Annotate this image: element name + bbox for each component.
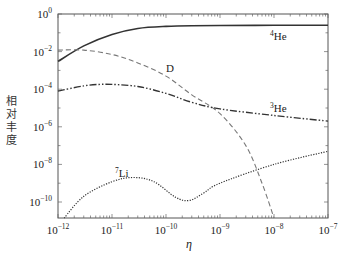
abundance-chart: 10−1210−1110−1010−910−810−710010−210−410…	[0, 0, 347, 260]
y-axis-label: 相对丰度	[4, 95, 18, 147]
tick-label: 10−8	[33, 156, 52, 170]
tick-label: 10−8	[265, 222, 284, 236]
curve-4he	[58, 25, 328, 61]
tick-label: 10−12	[47, 222, 70, 236]
tick-label: 10−10	[155, 222, 178, 236]
curve-deuterium	[58, 50, 274, 218]
tick-label: 10−6	[33, 119, 52, 133]
tick-label: 100	[37, 6, 52, 20]
axis-ticks	[58, 14, 328, 218]
tick-label: 10−2	[33, 44, 52, 58]
plot-frame	[58, 14, 328, 218]
label-7li: 7Li	[115, 166, 129, 179]
label-4he: 4He	[270, 29, 287, 42]
tick-label: 10−4	[33, 81, 52, 95]
curve-7li	[64, 151, 328, 218]
tick-label: 10−11	[101, 222, 124, 236]
tick-label: 10−7	[319, 222, 338, 236]
label-d: D	[166, 62, 174, 74]
curve-3he	[58, 84, 328, 121]
tick-label: 10−9	[211, 222, 230, 236]
label-3he: 3He	[270, 101, 287, 114]
x-axis-label: η	[186, 237, 192, 252]
axis-tick-labels: 10−1210−1110−1010−910−810−710010−210−410…	[29, 6, 337, 236]
tick-label: 10−10	[29, 194, 52, 208]
